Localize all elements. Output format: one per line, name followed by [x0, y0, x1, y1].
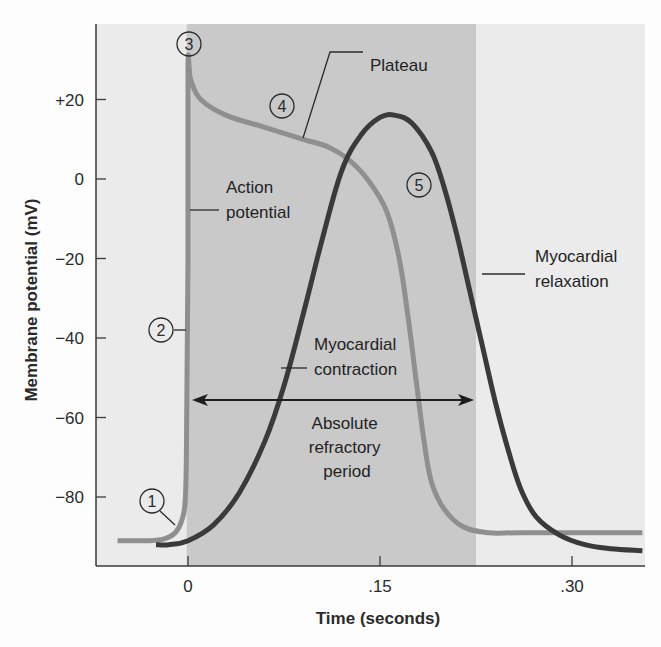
y-tick-label: −60 [55, 409, 84, 428]
marker-4-label: 4 [278, 98, 287, 115]
y-tick-label: −20 [55, 250, 84, 269]
marker-2-label: 2 [157, 322, 166, 339]
x-tick-label: .15 [368, 577, 392, 596]
y-tick-label: −80 [55, 488, 84, 507]
marker-1-label: 1 [148, 493, 157, 510]
x-axis-title: Time (seconds) [316, 609, 440, 628]
label-plateau: Plateau [370, 56, 428, 75]
x-tick-label: .30 [560, 577, 584, 596]
y-axis-title: Membrane potential (mV) [22, 198, 41, 401]
figure: +200−20−40−60−80 0.15.30 Membrane potent… [0, 0, 661, 647]
x-tick-label: 0 [183, 577, 192, 596]
y-tick-label: 0 [75, 170, 84, 189]
action-potential-contraction-chart: +200−20−40−60−80 0.15.30 Membrane potent… [0, 0, 661, 647]
y-tick-label: −40 [55, 329, 84, 348]
y-tick-label: +20 [55, 91, 84, 110]
marker-5-label: 5 [415, 177, 424, 194]
marker-3-label: 3 [185, 36, 194, 53]
